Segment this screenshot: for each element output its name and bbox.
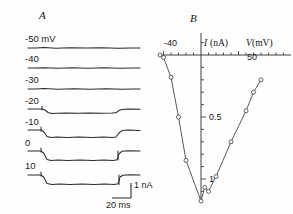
iv-point	[177, 115, 181, 119]
figure-canvas: A -50 mV -40 -30 -20 -10 0 10	[0, 0, 293, 214]
iv-point	[214, 175, 218, 179]
scalebar-current-label: 1 nA	[134, 180, 153, 190]
trace-minus20	[28, 109, 140, 114]
trace-minus50	[28, 48, 140, 49]
iv-point	[244, 109, 248, 113]
panel-b-group: B I (nA) V (mV) -40 50	[158, 12, 291, 203]
panel-a-group: A -50 mV -40 -30 -20 -10 0 10	[25, 9, 153, 210]
trace-label-minus30: -30	[25, 74, 39, 85]
iv-point	[169, 75, 173, 79]
trace-plus10	[28, 175, 140, 185]
current-axis-title-symbol: I	[203, 38, 208, 48]
trace-label-minus10: -10	[25, 116, 39, 127]
iv-point	[203, 185, 207, 189]
x-tick-label-50: 50	[247, 52, 257, 62]
iv-point	[252, 90, 256, 94]
trace-minus30	[28, 89, 140, 90]
trace-minus40	[28, 68, 140, 69]
scalebar-lines	[112, 183, 131, 198]
panel-b-letter: B	[190, 12, 197, 24]
panel-a-letter: A	[38, 9, 46, 21]
voltage-axis-title-unit: (mV)	[252, 38, 273, 49]
iv-point	[259, 78, 263, 82]
trace-label-zero: 0	[25, 137, 30, 148]
scalebar-time-label: 20 ms	[106, 200, 131, 210]
voltage-axis-ticks	[164, 51, 284, 55]
trace-minus10	[28, 130, 140, 138]
iv-point	[184, 158, 188, 162]
current-axis-ticks	[201, 43, 206, 192]
trace-label-minus20: -20	[25, 95, 39, 106]
trace-zero	[28, 151, 140, 161]
x-tick-label-minus40: -40	[164, 38, 177, 48]
y-tick-label-0-5: 0.5	[209, 112, 222, 122]
current-axis-title-unit: (nA)	[210, 38, 228, 49]
iv-point	[162, 56, 166, 60]
iv-point	[207, 189, 211, 193]
iv-point	[199, 199, 203, 203]
trace-label-plus10: 10	[25, 160, 36, 171]
trace-label-minus40: -40	[25, 53, 39, 64]
trace-label-minus50: -50 mV	[25, 33, 56, 44]
figure-container: A -50 mV -40 -30 -20 -10 0 10	[0, 0, 293, 214]
iv-point	[229, 140, 233, 144]
